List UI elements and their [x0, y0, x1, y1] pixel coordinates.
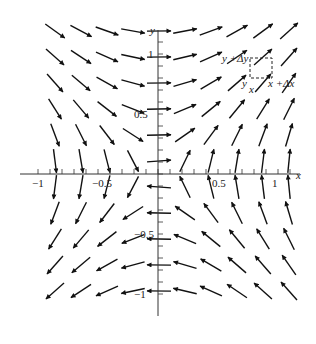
y-tick-label: −1: [134, 288, 146, 300]
vector-arrow: [229, 100, 244, 119]
vector-arrow: [284, 98, 295, 119]
vector-arrow: [127, 150, 138, 171]
vector-arrow: [286, 123, 293, 146]
vector-arrow: [235, 175, 239, 199]
vector-arrow: [47, 74, 63, 92]
vector-arrow: [71, 284, 91, 297]
vector-arrow: [173, 262, 196, 269]
vector-arrow: [173, 288, 196, 293]
vector-arrows: [45, 23, 298, 300]
label-y-plus-dy: y +Δy: [221, 52, 249, 64]
vector-arrow: [121, 29, 145, 33]
vector-arrow: [46, 283, 64, 299]
vector-arrow: [73, 100, 88, 118]
vector-arrow: [100, 125, 115, 144]
vector-arrow: [98, 232, 117, 247]
vector-arrow: [79, 175, 83, 199]
y-tick-label: −0.5: [134, 228, 154, 240]
vector-arrow: [262, 175, 265, 199]
y-tick-label: 0.5: [134, 108, 148, 120]
vector-arrow: [174, 234, 196, 243]
vector-arrow: [208, 149, 214, 172]
x-tick-label: −0.5: [92, 177, 112, 189]
vector-arrow: [96, 286, 118, 296]
vector-arrow: [97, 77, 118, 89]
vector-arrow: [282, 255, 296, 275]
vector-arrow: [257, 99, 270, 119]
vector-arrow: [100, 203, 115, 222]
vector-arrow: [173, 80, 196, 87]
vector-arrow: [71, 50, 91, 63]
x-tick-label: 0.5: [212, 177, 226, 189]
x-axis-label: x: [295, 169, 301, 181]
vector-arrow: [281, 282, 297, 300]
vector-arrow: [202, 101, 221, 116]
label-x-plus-dx: x +Δx: [267, 77, 295, 89]
label-x: x: [248, 83, 254, 95]
vector-arrow: [104, 149, 110, 172]
vector-arrow: [254, 49, 272, 65]
vector-arrow: [253, 24, 272, 38]
vector-arrow: [286, 201, 293, 224]
label-y: y: [241, 77, 247, 89]
vector-arrow: [51, 202, 59, 224]
vector-arrow: [232, 124, 243, 146]
vector-arrow: [229, 230, 244, 249]
axes: [20, 30, 300, 316]
vector-arrow: [97, 259, 118, 271]
vector-arrow: [201, 77, 222, 89]
vector-arrow: [180, 150, 190, 172]
dashed-box: [250, 58, 272, 78]
vector-arrow: [232, 202, 243, 224]
y-tick-label: 1: [148, 48, 154, 60]
vector-arrow: [76, 202, 87, 223]
vector-arrow: [202, 231, 221, 246]
vector-arrow: [79, 149, 83, 173]
vector-arrow: [47, 256, 63, 274]
vector-arrow: [180, 176, 190, 198]
vector-arrow: [235, 149, 239, 173]
vector-arrow: [254, 283, 272, 299]
vector-arrow: [121, 262, 144, 268]
vector-arrow: [226, 25, 247, 37]
vector-arrow: [173, 54, 196, 59]
vector-arrow: [204, 203, 218, 222]
vector-arrow: [76, 124, 87, 145]
vector-arrow: [127, 176, 138, 197]
vector-arrow: [262, 149, 265, 173]
x-tick-label: 1: [272, 177, 278, 189]
vector-field-plot: −1−0.50.5110.5−0.5−1xy y +Δyyxx +Δx: [0, 0, 316, 344]
vector-arrow: [201, 259, 222, 271]
vector-arrow: [46, 49, 64, 65]
y-axis-label: y: [149, 24, 155, 36]
vector-arrow: [98, 102, 117, 117]
vector-arrow: [227, 284, 247, 297]
vector-arrow: [70, 25, 91, 36]
vector-arrow: [49, 99, 62, 119]
vector-arrow: [259, 202, 267, 224]
vector-arrow: [73, 230, 88, 248]
vector-arrow: [51, 124, 59, 146]
vector-arrow: [121, 54, 144, 59]
vector-arrow: [259, 124, 267, 146]
vector-arrow: [72, 257, 90, 273]
vector-arrow: [53, 149, 56, 173]
vector-arrow: [204, 125, 218, 144]
vector-arrow: [284, 228, 295, 249]
vector-arrow: [228, 257, 246, 273]
vector-arrow: [173, 29, 197, 33]
vector-arrow: [200, 286, 222, 296]
vector-arrow: [121, 80, 144, 86]
vector-arrow: [147, 213, 171, 214]
vector-arrow: [255, 256, 271, 274]
vector-arrow: [281, 48, 297, 66]
vector-arrow: [175, 128, 195, 142]
x-tick-label: −1: [32, 177, 44, 189]
vector-arrow: [49, 229, 62, 249]
axis-labels: −1−0.50.5110.5−0.5−1xy: [32, 24, 301, 300]
vector-arrow: [147, 135, 171, 136]
vector-arrow: [288, 175, 290, 199]
vector-arrow: [123, 129, 143, 142]
vector-arrow: [280, 23, 298, 39]
vector-arrow: [72, 75, 90, 91]
